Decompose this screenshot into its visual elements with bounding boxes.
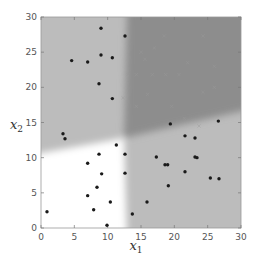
data-point-dot <box>86 162 89 165</box>
x-tick-label: 10 <box>102 232 114 242</box>
data-point-dot <box>100 172 103 175</box>
data-point-dot <box>111 97 114 100</box>
x-tick-label: 15 <box>135 232 146 242</box>
data-point-dot <box>166 163 169 166</box>
data-point-dot <box>86 60 89 63</box>
y-tick-label: 10 <box>26 153 38 163</box>
data-point-dot <box>115 143 118 146</box>
data-point-dot <box>45 210 48 213</box>
y-tick-label: 25 <box>26 47 37 57</box>
y-tick-label: 20 <box>26 82 38 92</box>
data-point-dot <box>217 119 220 122</box>
data-point-dot <box>92 208 95 211</box>
x-tick-label: 5 <box>71 232 77 242</box>
data-point-dot <box>99 27 102 30</box>
data-point-dot <box>105 223 108 226</box>
data-point-dot <box>70 59 73 62</box>
y-tick-label: 5 <box>31 188 37 198</box>
data-point-dot <box>209 176 212 179</box>
data-point-dot <box>123 171 126 174</box>
data-point-dot <box>63 137 66 140</box>
data-point-dot <box>97 152 100 155</box>
y-tick-label: 15 <box>26 118 37 128</box>
y-tick-label: 0 <box>31 223 37 233</box>
y-tick-label: 30 <box>26 12 38 22</box>
data-point-dot <box>99 53 102 56</box>
x-tick-label: 30 <box>235 232 247 242</box>
scatter-chart: 051015202530 051015202530 x1 x2 <box>0 0 259 260</box>
data-point-dot <box>183 134 186 137</box>
data-point-dot <box>86 194 89 197</box>
data-point-dot <box>145 200 148 203</box>
y-axis-label: x2 <box>10 117 23 134</box>
data-point-dot <box>193 136 196 139</box>
data-point-dot <box>193 155 196 158</box>
data-point-dot <box>111 56 114 59</box>
white-region <box>30 138 127 240</box>
data-point-dot <box>109 200 112 203</box>
data-point-dot <box>97 82 100 85</box>
data-point-dot <box>155 155 158 158</box>
data-point-dot <box>95 186 98 189</box>
x-tick-label: 25 <box>202 232 213 242</box>
data-point-dot <box>131 212 134 215</box>
plot-area <box>30 5 255 240</box>
data-point-dot <box>123 34 126 37</box>
data-point-dot <box>123 152 126 155</box>
data-point-dot <box>167 184 170 187</box>
data-point-dot <box>217 177 220 180</box>
data-point-dot <box>169 122 172 125</box>
data-point-dot <box>61 132 64 135</box>
x-tick-label: 0 <box>38 232 44 242</box>
data-point-dot <box>183 170 186 173</box>
x-tick-label: 20 <box>169 232 181 242</box>
